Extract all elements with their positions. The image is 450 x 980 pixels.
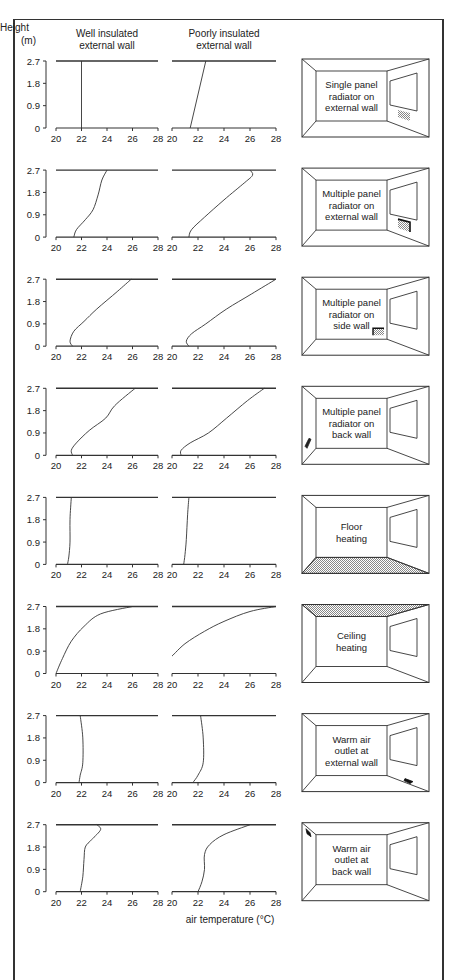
x-tick-label: 26 <box>245 788 256 799</box>
x-tick-label: 20 <box>51 351 62 362</box>
room-label: heating <box>336 642 367 653</box>
x-tick-label: 22 <box>193 460 204 471</box>
x-tick-label: 24 <box>219 569 230 580</box>
room-diagram: Ceilingheating <box>302 605 429 683</box>
x-tick-label: 22 <box>193 133 204 144</box>
temperature-profile-line <box>172 607 276 657</box>
x-tick-label: 24 <box>102 569 113 580</box>
x-tick-label: 22 <box>76 788 87 799</box>
room-edge <box>387 59 429 71</box>
x-tick-label: 20 <box>51 460 62 471</box>
room-diagram: Warm airoutlet atback wall <box>302 823 429 901</box>
room-label: external wall <box>325 757 378 768</box>
room-edge <box>387 667 429 683</box>
y-tick-label: 0.9 <box>27 864 40 875</box>
x-tick-label: 22 <box>193 569 204 580</box>
y-tick-label: 2.7 <box>27 710 40 721</box>
y-tick-label: 0.9 <box>27 646 40 657</box>
room-edge <box>387 121 429 137</box>
x-tick-label: 20 <box>51 679 62 690</box>
y-tick-label: 0.9 <box>27 100 40 111</box>
x-tick-label: 26 <box>127 679 138 690</box>
x-tick-label: 26 <box>245 351 256 362</box>
room-diagram: Multiple panelradiator onside wall <box>302 277 429 355</box>
room-label: external wall <box>325 102 378 113</box>
x-tick-label: 26 <box>127 242 138 253</box>
column-title-poor-line2: external wall <box>196 40 252 51</box>
x-tick-label: 20 <box>167 133 178 144</box>
room-edge <box>302 776 316 792</box>
column-title-well-line2: external wall <box>79 40 135 51</box>
temperature-profile-line <box>184 497 189 564</box>
x-tick-label: 22 <box>193 679 204 690</box>
column-title-well-line1: Well insulated <box>76 28 138 39</box>
temperature-profile-line <box>70 279 131 346</box>
x-tick-label: 28 <box>271 460 282 471</box>
x-tick-label: 24 <box>219 679 230 690</box>
x-tick-label: 22 <box>193 897 204 908</box>
y-tick-label: 2.7 <box>27 165 40 176</box>
temperature-profile-line <box>198 825 250 892</box>
x-tick-label: 26 <box>127 788 138 799</box>
temperature-profile-line <box>74 170 107 237</box>
room-edge <box>387 714 429 726</box>
chart-row: 00.91.82.720222426282022242628Single pan… <box>27 56 429 145</box>
x-tick-label: 26 <box>245 242 256 253</box>
x-tick-label: 28 <box>271 242 282 253</box>
room-label: heating <box>336 533 367 544</box>
x-tick-label: 26 <box>127 460 138 471</box>
window-icon <box>390 728 417 766</box>
x-tick-label: 26 <box>245 679 256 690</box>
y-axis-title-line1: Height <box>0 22 29 33</box>
x-tick-label: 22 <box>76 133 87 144</box>
radiator-icon <box>305 438 311 448</box>
x-tick-label: 28 <box>153 351 164 362</box>
window-icon <box>390 619 417 657</box>
room-edge <box>387 230 429 246</box>
x-tick-label: 28 <box>271 788 282 799</box>
temperature-profile-line <box>186 279 276 346</box>
room-diagram: Multiple panelradiator onexternal wall <box>302 168 429 246</box>
room-edge <box>302 339 316 355</box>
panel-poorly-insulated: 2022242628 <box>167 497 282 580</box>
y-tick-label: 0.9 <box>27 537 40 548</box>
room-edge <box>387 168 429 180</box>
room-label: back wall <box>332 429 371 440</box>
x-tick-label: 28 <box>271 351 282 362</box>
room-edge <box>302 230 316 246</box>
window-icon <box>390 291 417 329</box>
x-tick-label: 24 <box>102 679 113 690</box>
x-tick-label: 24 <box>219 788 230 799</box>
room-edge <box>302 386 316 398</box>
panel-well-insulated: 2022242628 <box>51 279 164 362</box>
room-label: Single panel <box>325 79 377 90</box>
y-tick-label: 0 <box>35 777 40 788</box>
x-tick-label: 22 <box>193 242 204 253</box>
room-label: outlet at <box>335 854 369 865</box>
room-diagram: Warm airoutlet atexternal wall <box>302 714 429 792</box>
panel-poorly-insulated: 2022242628 <box>167 825 282 908</box>
y-tick-label: 2.7 <box>27 56 40 67</box>
panel-well-insulated: 2022242628 <box>51 61 164 144</box>
chart-row: 00.91.82.720222426282022242628Multiple p… <box>27 165 429 254</box>
room-label: outlet at <box>335 745 369 756</box>
panel-well-insulated: 2022242628 <box>51 497 164 580</box>
x-tick-label: 26 <box>245 569 256 580</box>
x-tick-label: 22 <box>76 679 87 690</box>
room-label: radiator on <box>329 418 374 429</box>
room-label: Multiple panel <box>322 406 381 417</box>
temperature-profile-line <box>71 388 135 455</box>
x-tick-label: 28 <box>153 679 164 690</box>
y-tick-label: 2.7 <box>27 601 40 612</box>
chart-rows: 00.91.82.720222426282022242628Single pan… <box>27 56 429 908</box>
y-tick-label: 0 <box>35 123 40 134</box>
x-tick-label: 28 <box>153 897 164 908</box>
panel-poorly-insulated: 2022242628 <box>167 61 282 144</box>
y-tick-label: 0 <box>35 886 40 897</box>
room-edge <box>302 667 316 683</box>
chart-row: 00.91.82.720222426282022242628Ceilinghea… <box>27 601 429 690</box>
x-tick-label: 26 <box>127 569 138 580</box>
temperature-profile-line <box>189 170 253 237</box>
room-label: radiator on <box>329 309 374 320</box>
x-tick-label: 24 <box>219 897 230 908</box>
